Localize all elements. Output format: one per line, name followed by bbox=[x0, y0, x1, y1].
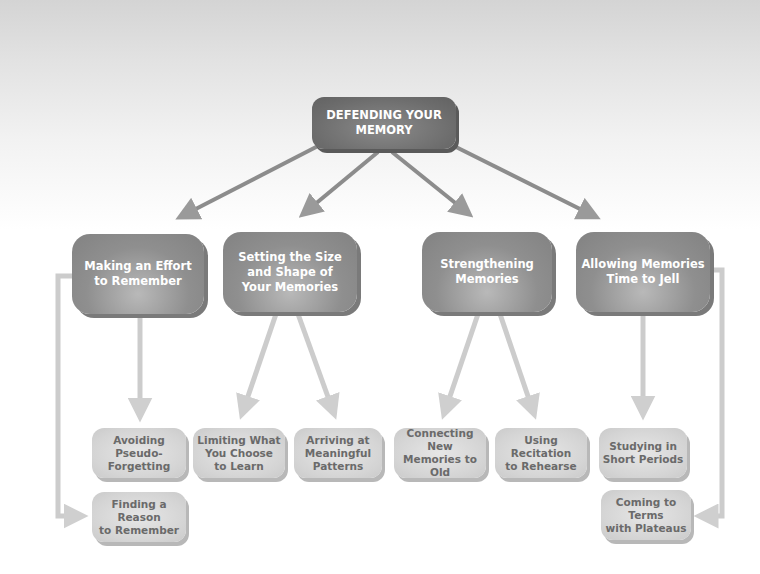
arrow-branch2-leaf2 bbox=[298, 314, 332, 408]
branch-time-to-jell: Allowing Memories Time to Jell bbox=[576, 232, 710, 312]
leaf-label: Studying in Short Periods bbox=[603, 440, 684, 466]
arrow-root-to-branch-1 bbox=[186, 146, 318, 214]
arrow-branch1-leaf2 bbox=[58, 276, 76, 516]
leaf-label: Connecting New Memories to Old bbox=[394, 427, 486, 479]
leaf-label: Using Recitation to Rehearse bbox=[495, 434, 587, 473]
leaf-avoiding-pseudo-forgetting: Avoiding Pseudo- Forgetting bbox=[92, 428, 186, 478]
arrow-branch3-leaf1 bbox=[446, 314, 478, 408]
branch-making-effort: Making an Effort to Remember bbox=[72, 234, 204, 314]
leaf-label: Coming to Terms with Plateaus bbox=[601, 496, 691, 535]
arrow-branch2-leaf1 bbox=[244, 314, 276, 408]
root-node-label: DEFENDING YOUR MEMORY bbox=[326, 108, 442, 138]
leaf-studying-short-periods: Studying in Short Periods bbox=[599, 428, 687, 478]
branch-label: Strengthening Memories bbox=[440, 257, 534, 287]
arrow-root-to-branch-2 bbox=[308, 152, 378, 210]
root-node: DEFENDING YOUR MEMORY bbox=[312, 97, 456, 149]
leaf-label: Finding a Reason to Remember bbox=[92, 498, 186, 537]
leaf-label: Arriving at Meaningful Patterns bbox=[305, 434, 371, 473]
branch-label: Making an Effort to Remember bbox=[84, 259, 191, 289]
arrow-branch3-leaf2 bbox=[500, 314, 532, 408]
leaf-label: Limiting What You Choose to Learn bbox=[197, 434, 280, 473]
arrow-root-to-branch-4 bbox=[454, 146, 590, 214]
arrow-branch4-leaf2 bbox=[706, 270, 722, 516]
arrow-root-to-branch-3 bbox=[392, 152, 464, 210]
branch-label: Setting the Size and Shape of Your Memor… bbox=[238, 250, 342, 295]
branch-label: Allowing Memories Time to Jell bbox=[581, 257, 704, 287]
leaf-finding-a-reason: Finding a Reason to Remember bbox=[92, 492, 186, 542]
leaf-coming-to-terms: Coming to Terms with Plateaus bbox=[601, 490, 691, 540]
leaf-arriving-at-patterns: Arriving at Meaningful Patterns bbox=[294, 428, 382, 478]
leaf-limiting-what-you-choose: Limiting What You Choose to Learn bbox=[193, 428, 285, 478]
leaf-connecting-new-memories: Connecting New Memories to Old bbox=[394, 428, 486, 478]
branch-strengthening: Strengthening Memories bbox=[422, 232, 552, 312]
leaf-using-recitation: Using Recitation to Rehearse bbox=[495, 428, 587, 478]
branch-size-shape: Setting the Size and Shape of Your Memor… bbox=[223, 232, 357, 312]
leaf-label: Avoiding Pseudo- Forgetting bbox=[92, 434, 186, 473]
